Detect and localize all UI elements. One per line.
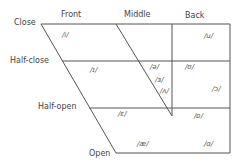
vowel-upsilon: /ʊ/ xyxy=(185,64,194,71)
vowel-u: /u/ xyxy=(204,33,213,40)
row-close: Close xyxy=(14,19,36,27)
vowel-small-i: /ɪ/ xyxy=(90,67,97,74)
vowel-script-a: /ɑ/ xyxy=(204,141,213,148)
column-middle: Middle xyxy=(124,11,150,19)
column-front: Front xyxy=(61,11,81,19)
vowel-wedge: /ʌ/ xyxy=(160,88,169,95)
vowel-schwa: /ə/ xyxy=(150,64,159,71)
vowel-turned-a: /ɒ/ xyxy=(194,113,203,120)
row-half-close: Half-close xyxy=(10,57,49,65)
row-half-open: Half-open xyxy=(38,103,77,111)
vowel-i: /i/ xyxy=(62,32,69,39)
column-back: Back xyxy=(185,12,204,20)
row-open: Open xyxy=(89,150,110,158)
vowel-epsilon: /ɛ/ xyxy=(118,111,127,118)
vowel-open-o: /ɔ/ xyxy=(212,86,221,93)
vowel-open-e: /ɜ/ xyxy=(155,77,164,84)
vowel-ash: /æ/ xyxy=(137,141,149,148)
